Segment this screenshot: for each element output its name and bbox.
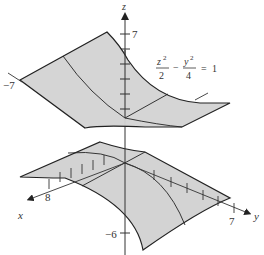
equation: z 2 2 − y 2 4 = 1: [156, 54, 217, 81]
z-tick-7: 7: [132, 28, 138, 40]
upper-sheet: [8, 32, 230, 128]
eq-equals: =: [201, 63, 207, 74]
hyperbolic-cylinder-diagram: z 7 −7 x 8 y 7 −6 z 2 2 − y 2 4 = 1: [0, 0, 264, 255]
eq-den-4: 4: [186, 70, 191, 81]
eq-z: z: [156, 56, 161, 67]
x-tick-8: 8: [45, 191, 51, 203]
eq-y: y: [183, 56, 189, 67]
x-axis-label: x: [17, 209, 23, 221]
eq-den-2: 2: [159, 70, 164, 81]
y-tick-7: 7: [229, 215, 235, 227]
z-tick-neg6: −6: [105, 228, 117, 240]
z-axis-label: z: [121, 1, 126, 12]
eq-z-exp: 2: [163, 54, 167, 62]
eq-y-exp: 2: [190, 54, 194, 62]
eq-minus: −: [173, 62, 179, 73]
left-tick-neg7: −7: [3, 79, 15, 91]
y-axis-label: y: [253, 210, 259, 222]
eq-rhs: 1: [212, 63, 217, 74]
